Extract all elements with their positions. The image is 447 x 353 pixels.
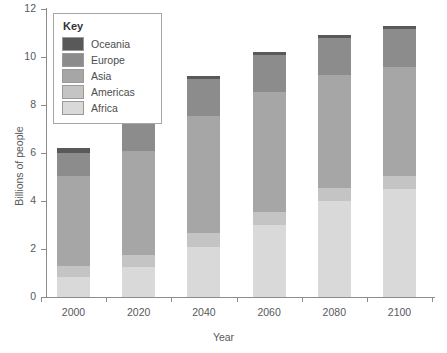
legend-swatch-africa [62,101,84,115]
bar-segment-europe [383,29,416,66]
bar-segment-europe [253,55,286,92]
legend: Key OceaniaEuropeAsiaAmericasAfrica [53,13,162,124]
y-tick [41,105,47,106]
bar-2100 [383,26,416,297]
y-tick [41,9,47,10]
bar-2080 [318,35,351,297]
x-tick [237,297,238,302]
y-tick [41,153,47,154]
x-tick-label: 2020 [109,306,169,318]
bar-segment-europe [187,79,220,116]
bar-segment-europe [318,38,351,75]
bar-segment-americas [253,212,286,225]
bar-2060 [253,52,286,297]
x-axis-title: Year [0,331,447,343]
x-tick-label: 2000 [44,306,104,318]
legend-label: Oceania [91,38,130,50]
x-tick [367,297,368,302]
legend-swatch-asia [62,69,84,83]
bar-segment-asia [253,92,286,212]
x-tick [432,297,433,302]
bar-segment-asia [383,67,416,176]
x-tick-label: 2040 [174,306,234,318]
bar-segment-americas [57,266,90,277]
y-axis-title: Billions of people [13,106,25,226]
legend-title: Key [63,20,153,32]
legend-item-americas: Americas [62,84,153,99]
bar-segment-asia [57,176,90,266]
bar-segment-americas [122,255,155,267]
bar-segment-americas [187,233,220,246]
bar-2000 [57,148,90,297]
y-tick [41,57,47,58]
y-tick-label: 12 [8,2,36,14]
legend-swatch-oceania [62,37,84,51]
bar-segment-americas [318,188,351,201]
y-tick [41,201,47,202]
x-tick-label: 2080 [304,306,364,318]
y-tick-label: 6 [8,146,36,158]
bar-segment-africa [318,201,351,297]
bar-segment-africa [122,267,155,297]
stacked-bar-chart: Billions of people Year 024681012 200020… [0,0,447,353]
bar-segment-africa [57,277,90,297]
bar-segment-africa [383,189,416,297]
bar-segment-africa [253,225,286,297]
legend-label: Europe [91,54,125,66]
x-tick [41,297,42,302]
legend-item-africa: Africa [62,100,153,115]
y-tick-label: 10 [8,50,36,62]
legend-item-europe: Europe [62,52,153,67]
y-tick-label: 0 [8,290,36,302]
legend-label: Africa [91,102,118,114]
bar-segment-asia [187,116,220,234]
legend-swatch-europe [62,53,84,67]
legend-swatch-americas [62,85,84,99]
x-tick [171,297,172,302]
y-tick [41,249,47,250]
x-tick [106,297,107,302]
x-tick-label: 2060 [239,306,299,318]
legend-item-asia: Asia [62,68,153,83]
bar-2040 [187,76,220,297]
y-tick-label: 4 [8,194,36,206]
bar-segment-asia [122,151,155,255]
bar-2020 [122,110,155,297]
y-tick-label: 2 [8,242,36,254]
legend-entries: OceaniaEuropeAsiaAmericasAfrica [62,36,153,115]
legend-label: Asia [91,70,111,82]
bar-segment-europe [57,153,90,176]
legend-label: Americas [91,86,135,98]
bar-segment-americas [383,176,416,189]
y-tick-label: 8 [8,98,36,110]
x-tick-label: 2100 [370,306,430,318]
legend-item-oceania: Oceania [62,36,153,51]
bar-segment-asia [318,75,351,188]
x-tick [302,297,303,302]
bar-segment-africa [187,247,220,297]
x-axis-line [46,297,435,298]
